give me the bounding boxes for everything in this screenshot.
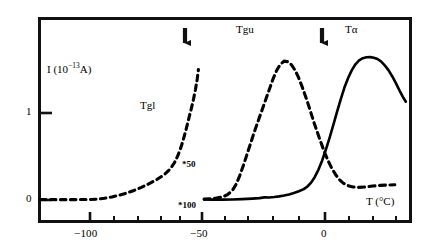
curve-label-talpha: Tα [345,24,357,35]
y-tick-label-0: 0 [26,193,32,204]
x-axis-major-ticks [90,212,325,223]
y-axis-title: I (10−13A) [47,62,91,75]
y-tick-label-1: 1 [26,106,32,117]
scale-annotation-100: *100 [178,201,196,210]
chart-canvas [0,0,438,249]
x-tick-label-neg100: −100 [74,228,98,239]
chart-figure: I (10−13A) T (°C) 1 0 −100 −50 0 Tgl Tgu… [0,0,438,249]
x-axis-title: T (°C) [366,196,394,207]
scale-annotation-50: *50 [182,160,196,169]
y-axis-ticks [38,113,52,200]
curve-label-tgu: Tgu [236,24,254,35]
curve-tgl [40,70,198,200]
x-tick-label-neg50: −50 [190,228,208,239]
x-axis-minor-ticks [114,216,396,223]
curve-label-tgl: Tgl [140,100,155,111]
x-tick-label-0: 0 [321,228,327,239]
curve-talpha [204,57,406,200]
y-axis-exponent: −13 [68,61,80,70]
curve-tgu [204,61,395,199]
